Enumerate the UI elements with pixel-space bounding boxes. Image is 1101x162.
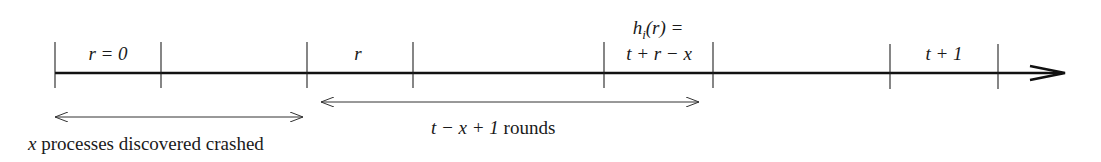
label-text: t + 1 (925, 43, 962, 64)
label-r: r (330, 44, 386, 63)
label-text: r = 0 (88, 43, 127, 64)
caption-math: t − x + 1 (431, 117, 499, 138)
axis-ticks (55, 42, 998, 89)
caption-crashed: x processes discovered crashed (28, 134, 264, 153)
label-rest: (r) = (646, 17, 684, 38)
label-r-equals-0: r = 0 (70, 44, 146, 63)
label-h: h (633, 17, 643, 38)
caption-text: processes discovered crashed (36, 133, 263, 154)
label-text: r (354, 43, 361, 64)
caption-text: rounds (499, 117, 555, 138)
label-text: t + r − x (626, 43, 692, 64)
label-hi-r-equals: hi(r) = (608, 18, 708, 41)
label-t-plus-1: t + 1 (904, 44, 984, 63)
label-t-plus-r-minus-x: t + r − x (606, 44, 712, 63)
caption-rounds: t − x + 1 rounds (431, 118, 555, 137)
